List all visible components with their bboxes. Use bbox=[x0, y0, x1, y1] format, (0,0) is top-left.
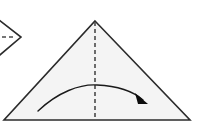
diagram-canvas bbox=[0, 0, 197, 133]
previous-step-chevron bbox=[0, 16, 21, 60]
previous-step-chevron-outline bbox=[0, 16, 21, 60]
origami-fold-diagram bbox=[0, 0, 197, 133]
paper-triangle bbox=[4, 21, 190, 120]
